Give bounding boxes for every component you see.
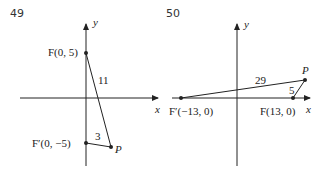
label-F-prime: F′(0, −5) xyxy=(32,137,71,150)
segment-PF-prime xyxy=(86,143,111,147)
segment-PF-prime xyxy=(181,80,305,98)
point-F-prime xyxy=(84,141,88,145)
figure-canvas: 49 x y F(0, 5) F′(0, −5) P 11 3 50 x y F… xyxy=(0,0,324,175)
point-F-prime xyxy=(179,96,183,100)
distance-PF-prime: 3 xyxy=(95,130,101,142)
distance-PF: 11 xyxy=(98,74,109,86)
label-F-prime: F′(−13, 0) xyxy=(169,105,213,118)
problem-number: 49 xyxy=(10,7,24,20)
point-P xyxy=(303,78,307,82)
label-P: P xyxy=(301,64,309,76)
point-P xyxy=(109,145,113,149)
point-F xyxy=(84,51,88,55)
panel-49: 49 x y F(0, 5) F′(0, −5) P 11 3 xyxy=(10,7,160,166)
panel-50: 50 x y F′(−13, 0) F(13, 0) P 29 5 xyxy=(166,7,311,166)
point-F xyxy=(291,96,295,100)
label-F: F(0, 5) xyxy=(48,46,78,59)
y-axis-label: y xyxy=(243,18,249,30)
distance-PF-prime: 29 xyxy=(255,74,267,86)
label-P: P xyxy=(114,143,122,155)
y-axis-label: y xyxy=(92,16,98,28)
x-axis-label: x xyxy=(305,103,311,115)
problem-number: 50 xyxy=(166,7,180,20)
x-axis-label: x xyxy=(154,103,160,115)
label-F: F(13, 0) xyxy=(260,105,296,118)
segment-PF xyxy=(293,80,305,98)
distance-PF: 5 xyxy=(289,84,295,96)
